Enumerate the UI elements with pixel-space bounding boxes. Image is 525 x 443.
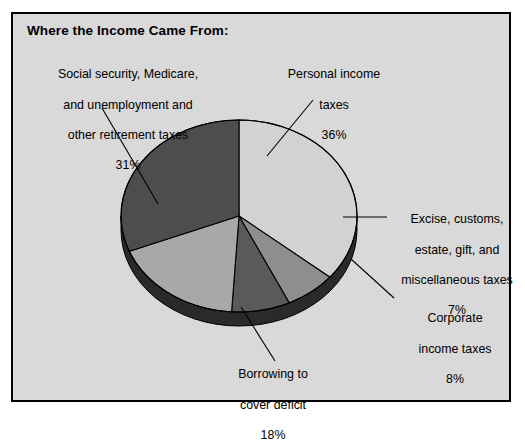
slice-label-personal-line1: Personal income [259,67,409,82]
slice-label-borrowing-line1: Borrowing to [193,367,353,382]
slice-label-corporate-line1: Corporate [393,311,517,326]
slice-value-borrowing: 18% [193,428,353,443]
slice-value-social: 31% [19,158,237,173]
slice-label-personal: Personal income taxes 36% [259,52,409,158]
slice-label-excise-line3: miscellaneous taxes [389,273,525,288]
slice-label-corporate: Corporate income taxes 8% [393,296,517,402]
leader-line-corporate [351,259,394,298]
slice-label-borrowing: Borrowing to cover deficit 18% [193,352,353,443]
slice-value-corporate: 8% [393,372,517,387]
slice-label-personal-line2: taxes [259,98,409,113]
slice-label-social-line3: other retirement taxes [19,128,237,143]
slice-label-social: Social security, Medicare, and unemploym… [19,52,237,189]
slice-label-social-line2: and unemployment and [19,98,237,113]
chart-panel: Where the Income Came From: [11,12,511,402]
slice-label-borrowing-line2: cover deficit [193,398,353,413]
slice-label-excise-line2: estate, gift, and [389,243,525,258]
slice-value-personal: 36% [259,128,409,143]
slice-label-social-line1: Social security, Medicare, [19,67,237,82]
slice-label-corporate-line2: income taxes [393,342,517,357]
slice-label-excise-line1: Excise, customs, [389,212,525,227]
